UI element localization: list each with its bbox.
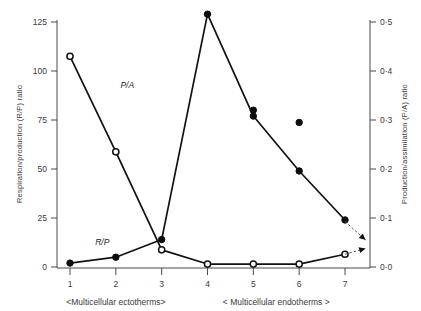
ytick-label-left-50: 50 [38, 164, 48, 174]
y-axis-title-right: Production/assimilation (P/A) ratio [400, 84, 409, 204]
chart-figure: 0 25 50 75 100 125 Respiration/productio… [0, 0, 421, 311]
series-line [70, 56, 345, 264]
data-point-filled [158, 236, 164, 242]
ytick-label-right-02: 0·2 [380, 164, 393, 174]
group-bracket-label-1: < Multicellular endotherms > [223, 297, 330, 307]
series-layer: P/AR/P [67, 11, 366, 267]
right-axis: 0·0 0·1 0·2 0·3 0·4 0·5 Production/assim… [370, 17, 409, 272]
group-bracket-layer: <Multicellular ectotherms>< Multicellula… [66, 297, 329, 307]
ytick-label-left-75: 75 [38, 115, 48, 125]
series-line [70, 14, 345, 263]
data-point-filled [67, 260, 73, 266]
data-point-filled [250, 107, 256, 113]
ytick-label-right-04: 0·4 [380, 66, 393, 76]
xtick-label-6: 6 [297, 279, 302, 289]
ytick-label-right-01: 0·1 [380, 213, 393, 223]
data-point-open [159, 247, 165, 253]
y-axis-title-left: Respiration/production (R/P) ratio [15, 85, 24, 203]
xtick-label-2: 2 [113, 279, 118, 289]
data-point-open [250, 261, 256, 267]
series-label-p-a: P/A [120, 80, 134, 90]
xtick-label-1: 1 [68, 279, 73, 289]
data-point-filled [113, 254, 119, 260]
chart-canvas: 0 25 50 75 100 125 Respiration/productio… [0, 0, 421, 311]
series-label-r-p: R/P [95, 237, 110, 247]
data-point-open [67, 53, 73, 59]
xtick-label-4: 4 [205, 279, 210, 289]
data-point-filled [342, 217, 348, 223]
group-bracket-label-0: <Multicellular ectotherms> [66, 297, 165, 307]
data-point-open [296, 261, 302, 267]
x-axis: 1234567 [57, 268, 370, 289]
data-point-filled [296, 119, 302, 125]
ytick-label-right-00: 0·0 [380, 262, 393, 272]
xtick-label-3: 3 [159, 279, 164, 289]
data-point-filled [296, 168, 302, 174]
xtick-label-7: 7 [343, 279, 348, 289]
ytick-label-left-0: 0 [42, 262, 47, 272]
ytick-label-right-05: 0·5 [380, 17, 393, 27]
arrow-head-icon [359, 247, 366, 253]
data-point-filled [204, 11, 210, 17]
extrapolation-arrow-rp [345, 221, 366, 240]
ytick-label-right-03: 0·3 [380, 115, 393, 125]
left-axis: 0 25 50 75 100 125 Respiration/productio… [15, 17, 57, 272]
xtick-label-5: 5 [251, 279, 256, 289]
ytick-label-left-125: 125 [33, 17, 47, 27]
series-p-a: P/A [67, 53, 348, 267]
data-point-open [113, 149, 119, 155]
ytick-label-left-25: 25 [38, 213, 48, 223]
ytick-label-left-100: 100 [33, 66, 47, 76]
data-point-open [204, 261, 210, 267]
